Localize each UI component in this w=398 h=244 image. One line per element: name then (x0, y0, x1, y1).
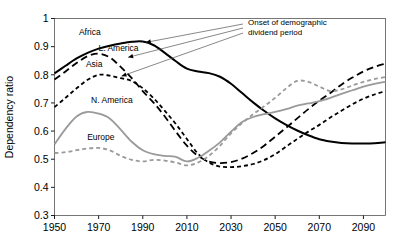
y-tick-label: 0.4 (34, 181, 49, 193)
y-tick-label: 0.8 (34, 69, 49, 81)
x-tick-label: 1970 (87, 221, 111, 233)
y-tick-label: 1 (43, 12, 49, 24)
y-tick-label: 0.5 (34, 153, 49, 165)
y-axis-title: Dependency ratio (3, 76, 15, 158)
x-tick-label: 1950 (43, 221, 67, 233)
x-tick-label: 2090 (352, 221, 376, 233)
y-tick-label: 0.7 (34, 97, 49, 109)
y-tick-label: 0.3 (34, 209, 49, 221)
series-label-africa: Africa (79, 27, 101, 37)
y-tick-label: 0.6 (34, 125, 49, 137)
annotation-line-1: Onset of demographic (248, 18, 327, 27)
x-tick-label: 2070 (308, 221, 332, 233)
x-tick-label: 1990 (131, 221, 155, 233)
series-label-n-america: N. America (91, 95, 133, 105)
y-axis-title-text: Dependency ratio (3, 76, 15, 158)
figure-background (0, 0, 398, 244)
y-tick-label: 0.9 (34, 40, 49, 52)
x-tick-label: 2010 (175, 221, 199, 233)
series-label-asia: Asia (86, 59, 103, 69)
x-tick-label: 2030 (219, 221, 243, 233)
x-tick-label: 2050 (263, 221, 287, 233)
chart-figure: 19501970199020102030205020702090 0.30.40… (0, 0, 398, 244)
series-label-l-america: L. America (98, 43, 138, 53)
series-label-europe: Europe (87, 132, 115, 142)
annotation-line-2: dividend period (248, 28, 302, 37)
chart-canvas: 19501970199020102030205020702090 0.30.40… (0, 0, 398, 244)
